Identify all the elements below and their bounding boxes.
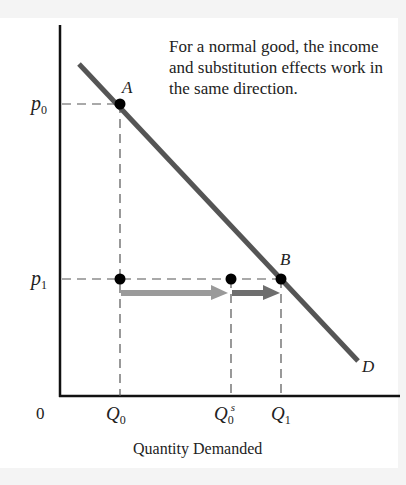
x-axis-label: Quantity Demanded bbox=[133, 440, 262, 458]
point-b-label: B bbox=[280, 250, 290, 270]
guide-lines bbox=[62, 104, 281, 396]
y-tick-p1: p1 bbox=[31, 267, 47, 293]
x-tick-q0: Q0 bbox=[106, 403, 126, 428]
point-b-dot bbox=[276, 274, 287, 285]
x-tick-q1: Q1 bbox=[271, 403, 291, 428]
point-a-label: A bbox=[122, 78, 132, 98]
curve-d-label: D bbox=[362, 357, 374, 377]
point-q0s-p1-dot bbox=[226, 274, 237, 285]
point-a-dot bbox=[115, 99, 126, 110]
x-tick-q0s: Q0s bbox=[214, 403, 238, 428]
y-tick-p0: p0 bbox=[31, 92, 47, 118]
annotation-text: For a normal good, the income and substi… bbox=[169, 36, 399, 99]
origin-label: 0 bbox=[36, 404, 45, 424]
income-effect-arrow bbox=[232, 285, 280, 300]
point-q0-p1-dot bbox=[115, 274, 126, 285]
substitution-effect-arrow bbox=[121, 285, 228, 300]
